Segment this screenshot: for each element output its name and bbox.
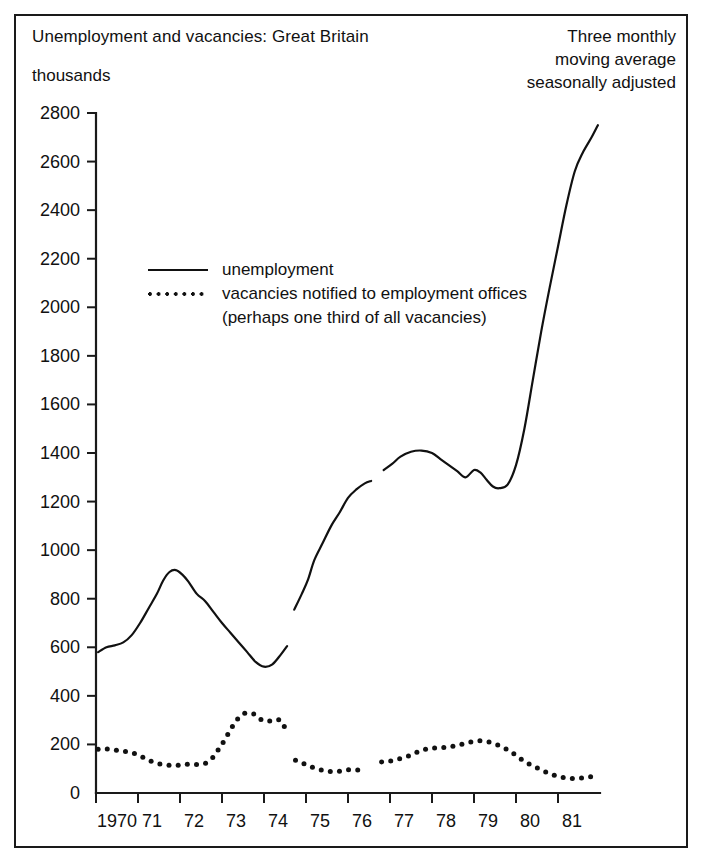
x-axis-tick-label: 75 [310,811,330,831]
vacancies-dot [561,775,566,780]
vacancies-dot [267,719,272,724]
vacancies-dot [319,768,324,773]
y-axis-tick-label: 2000 [40,297,80,317]
vacancies-dot [310,765,315,770]
y-axis-tick-label: 1000 [40,540,80,560]
vacancies-dot [328,769,333,774]
vacancies-dot [251,711,256,716]
vacancies-dot [276,717,281,722]
vacancies-dot [487,740,492,745]
x-axis-tick-label: 1970 [97,811,137,831]
vacancies-dot [105,746,110,751]
vacancies-dot [140,755,145,760]
vacancies-dot [235,716,240,721]
vacancies-dot [355,767,360,772]
vacancies-dot [114,748,119,753]
vacancies-dot [579,776,584,781]
y-axis-tick-label: 400 [50,686,80,706]
vacancies-dot [96,747,101,752]
solid-line-key-icon [148,258,210,282]
vacancies-dot [132,751,137,756]
vacancies-dot [397,756,402,761]
vacancies-dot [123,749,128,754]
vacancies-dot [450,744,455,749]
x-axis-tick-label: 81 [562,811,582,831]
vacancies-dot [441,745,446,750]
vacancies-dot [535,766,540,771]
vacancies-dot [588,774,593,779]
y-axis-tick-label: 1600 [40,394,80,414]
unemployment-line-segment [98,570,287,667]
vacancies-dot [282,724,287,729]
x-axis-tick-label: 72 [184,811,204,831]
x-axis-tick-label: 71 [142,811,162,831]
vacancies-dot [543,769,548,774]
legend-item-unemployment: unemployment [148,258,527,282]
vacancies-dot [504,746,509,751]
vacancies-dot [293,758,298,763]
unemployment-line-segment [294,481,371,610]
x-axis-tick-label: 76 [352,811,372,831]
vacancies-dot [495,743,500,748]
chart-series [96,125,598,781]
y-axis-tick-label: 2800 [40,103,80,123]
vacancies-dot [432,745,437,750]
y-axis-tick-label: 1200 [40,492,80,512]
y-axis-tick-label: 1400 [40,443,80,463]
x-axis-tick-label: 73 [226,811,246,831]
vacancies-dot [570,776,575,781]
y-axis-tick-label: 2400 [40,200,80,220]
legend-label-vacancies: vacancies notified to employment offices [222,282,527,306]
x-axis-tick-label: 77 [394,811,414,831]
x-axis-tick-label: 80 [520,811,540,831]
vacancies-dot [552,773,557,778]
vacancies-dot [301,761,306,766]
vacancies-dot [221,740,226,745]
vacancies-dot [225,732,230,737]
dotted-line-key-icon [148,282,210,306]
chart-axes [87,113,600,803]
vacancies-dot [346,767,351,772]
vacancies-dot [519,757,524,762]
vacancies-dot [527,761,532,766]
chart-tick-labels: 0200400600800100012001400160018002000220… [40,103,582,831]
y-axis-tick-label: 2600 [40,152,80,172]
vacancies-dot [167,763,172,768]
vacancies-dot [459,742,464,747]
legend-item-vacancies: vacancies notified to employment offices [148,282,527,306]
y-axis-tick-label: 2200 [40,249,80,269]
legend-label-vacancies-sub: (perhaps one third of all vacancies) [222,306,527,330]
vacancies-dot [337,769,342,774]
vacancies-dot [511,751,516,756]
vacancies-dot [157,762,162,767]
vacancies-dot [242,711,247,716]
vacancies-dot [194,762,199,767]
vacancies-dot [176,763,181,768]
x-axis-tick-label: 78 [436,811,456,831]
chart-plot-area: 0200400600800100012001400160018002000220… [0,0,704,864]
x-axis-tick-label: 74 [268,811,288,831]
vacancies-dot [477,738,482,743]
y-axis-tick-label: 0 [70,783,80,803]
vacancies-dot [185,762,190,767]
vacancies-dot [414,750,419,755]
vacancies-dot [210,755,215,760]
vacancies-dot [230,724,235,729]
y-axis-tick-label: 200 [50,734,80,754]
chart-legend: unemployment vacancies notified to emplo… [148,258,527,330]
vacancies-dot [216,748,221,753]
vacancies-dot [258,717,263,722]
y-axis-tick-label: 800 [50,589,80,609]
vacancies-dot [468,740,473,745]
vacancies-dot [149,759,154,764]
vacancies-dot [406,753,411,758]
vacancies-dot [423,747,428,752]
vacancies-dot [388,758,393,763]
legend-label-unemployment: unemployment [222,258,334,282]
figure-container: Unemployment and vacancies: Great Britai… [0,0,704,864]
y-axis-tick-label: 600 [50,637,80,657]
vacancies-dot [203,761,208,766]
vacancies-dot [379,759,384,764]
x-axis-tick-label: 79 [478,811,498,831]
y-axis-tick-label: 1800 [40,346,80,366]
